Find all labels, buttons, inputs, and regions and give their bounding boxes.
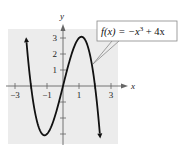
- x-tick-label: 3: [109, 90, 114, 100]
- x-tick-label: 1: [77, 90, 82, 100]
- chart: −3−113 x 123 y f(x) = −x3 + 4x: [0, 0, 183, 153]
- x-tick-label: −1: [42, 90, 52, 100]
- y-tick-label: 2: [53, 49, 58, 59]
- y-tick-label: 1: [53, 65, 58, 75]
- x-axis-arrow-icon: [121, 84, 128, 89]
- y-axis-arrow-icon: [61, 24, 66, 31]
- y-tick-label: 3: [53, 33, 58, 43]
- svg-text:f(x) = −x3 + 4x: f(x) = −x3 + 4x: [101, 25, 166, 38]
- x-tick-label: −3: [10, 90, 20, 100]
- function-label-callout: f(x) = −x3 + 4x: [97, 21, 177, 41]
- callout-lhs: f(x) = −x: [101, 26, 140, 38]
- y-axis-label: y: [59, 11, 64, 21]
- callout-rhs: + 4x: [143, 26, 165, 37]
- x-axis-label: x: [130, 81, 135, 91]
